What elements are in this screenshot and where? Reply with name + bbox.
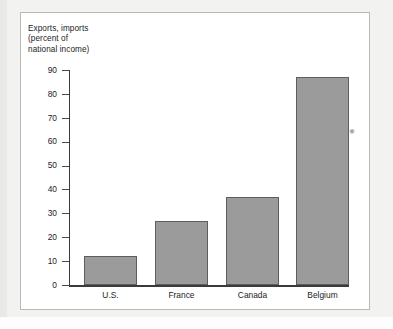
y-tick-mark — [62, 285, 69, 286]
y-tick-mark — [62, 70, 69, 71]
y-tick-mark — [62, 166, 69, 167]
x-axis-label: France — [143, 291, 220, 299]
bar-belgium — [296, 77, 349, 285]
y-tick-label: 80 — [17, 90, 57, 98]
y-tick-label: 50 — [17, 161, 57, 169]
x-axis-label: Canada — [214, 291, 291, 299]
y-tick-mark — [62, 261, 69, 262]
y-tick-mark — [62, 237, 69, 238]
bar-chart-plot: 0102030405060708090 U.S.FranceCanadaBelg… — [0, 0, 393, 329]
y-tick-mark — [62, 118, 69, 119]
x-axis-label: Belgium — [284, 291, 361, 299]
x-axis-label: U.S. — [72, 291, 149, 299]
figure-root: Exports, imports(percent ofnational inco… — [0, 0, 393, 329]
y-tick-mark — [62, 189, 69, 190]
y-tick-label: 60 — [17, 137, 57, 145]
y-tick-label: 10 — [17, 257, 57, 265]
y-tick-label: 70 — [17, 114, 57, 122]
y-axis-line — [69, 70, 70, 286]
x-axis-line — [69, 285, 349, 287]
bar-france — [155, 221, 208, 286]
y-tick-mark — [62, 142, 69, 143]
bar-canada — [226, 197, 279, 285]
y-tick-label: 0 — [17, 281, 57, 289]
y-tick-mark — [62, 213, 69, 214]
y-tick-label: 20 — [17, 233, 57, 241]
y-tick-label: 40 — [17, 185, 57, 193]
bar-u-s — [84, 256, 137, 285]
y-tick-label: 30 — [17, 209, 57, 217]
y-tick-mark — [62, 94, 69, 95]
y-tick-label: 90 — [17, 66, 57, 74]
